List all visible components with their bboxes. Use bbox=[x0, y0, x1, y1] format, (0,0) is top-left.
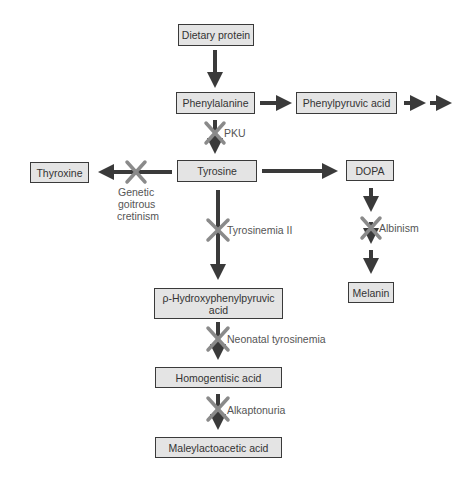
block-label-alkaptonuria: Alkaptonuria bbox=[227, 404, 285, 416]
node-tyrosine: Tyrosine bbox=[177, 160, 257, 182]
block-label-cretinism-3: cretinism bbox=[117, 210, 159, 222]
node-phenylpyruvic-acid: Phenylpyruvic acid bbox=[296, 92, 397, 114]
node-dopa: DOPA bbox=[346, 160, 394, 181]
block-label-tyrosinemia-ii: Tyrosinemia II bbox=[227, 224, 292, 236]
block-label-cretinism-2: goitrous bbox=[118, 198, 155, 210]
block-label-pku: PKU bbox=[224, 127, 246, 139]
block-label-cretinism-1: Genetic bbox=[118, 186, 154, 198]
node-maleylacetoacetic-acid: Maleylactoacetic acid bbox=[155, 437, 282, 458]
pathway-diagram: Dietary protein Phenylalanine Phenylpyru… bbox=[0, 0, 472, 478]
node-homogentisic-acid: Homogentisic acid bbox=[155, 367, 282, 388]
node-melanin: Melanin bbox=[348, 282, 394, 303]
node-dietary-protein: Dietary protein bbox=[178, 24, 254, 46]
node-thyroxine: Thyroxine bbox=[30, 162, 89, 183]
block-label-albinism: Albinism bbox=[379, 222, 419, 234]
node-p-hydroxyphenylpyruvic-acid: ρ-Hydroxyphenylpyruvic acid bbox=[154, 288, 283, 319]
block-label-neonatal-tyrosinemia: Neonatal tyrosinemia bbox=[227, 333, 326, 345]
node-phenylalanine: Phenylalanine bbox=[176, 92, 255, 114]
